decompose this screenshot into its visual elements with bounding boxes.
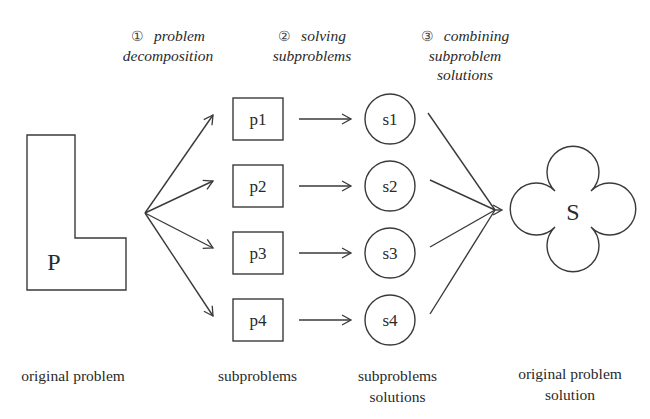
- subsolution-label-4: s4: [382, 311, 398, 330]
- decomposition-arrows: [145, 115, 213, 316]
- solution-label: S: [566, 199, 579, 225]
- step-2-line2: subproblems: [262, 46, 362, 65]
- step-3-number: ③: [421, 29, 434, 44]
- step-2-line1: solving: [301, 27, 346, 44]
- combining-lines: [428, 113, 502, 314]
- subproblem-label-2: p2: [250, 177, 267, 196]
- caption-solution: original problem solution: [500, 363, 640, 405]
- step-2-header: ②solving subproblems: [262, 26, 362, 65]
- step-2-number: ②: [278, 29, 291, 44]
- subsolution-label-2: s2: [382, 177, 397, 196]
- step-1-header: ①problem decomposition: [108, 26, 228, 65]
- caption-solution-line2: solution: [500, 384, 640, 405]
- subproblem-label-4: p4: [250, 311, 268, 330]
- subproblem-label-3: p3: [250, 244, 267, 263]
- caption-solution-line1: original problem: [500, 363, 640, 384]
- caption-original-problem: original problem: [8, 365, 138, 386]
- original-problem-label: P: [47, 249, 60, 275]
- step-1-line2: decomposition: [108, 46, 228, 65]
- subsolution-label-1: s1: [382, 110, 397, 129]
- solving-arrows: [299, 119, 351, 320]
- original-problem-shape: [27, 135, 126, 290]
- caption-subproblems: subproblems: [205, 365, 310, 386]
- step-3-line2: subproblem: [405, 46, 525, 65]
- caption-subsolutions-line2: solutions: [345, 386, 450, 407]
- step-3-header: ③combining subproblem solutions: [405, 26, 525, 84]
- caption-subsolutions: subproblems solutions: [345, 365, 450, 407]
- step-3-line3: solutions: [405, 65, 525, 84]
- subproblem-label-1: p1: [250, 110, 267, 129]
- step-3-line1: combining: [444, 27, 509, 44]
- step-1-line1: problem: [154, 27, 205, 44]
- caption-subsolutions-line1: subproblems: [345, 365, 450, 386]
- step-1-number: ①: [131, 29, 144, 44]
- subsolution-label-3: s3: [382, 244, 397, 263]
